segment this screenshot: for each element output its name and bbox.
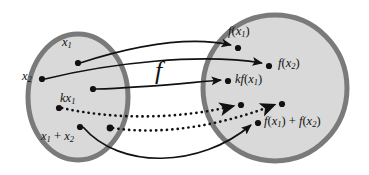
label-fx1: f(x1) xyxy=(228,25,250,39)
point-kx1 xyxy=(90,86,96,92)
linear-map-diagram: x1 x2 kx1 x1 + x2 f(x1) f(x2) kf(x1) f(x… xyxy=(0,0,369,175)
point-x2 xyxy=(39,76,45,82)
point-fx1 xyxy=(235,45,241,51)
label-kfx1: kf(x1) xyxy=(235,73,262,87)
label-map-f: f xyxy=(155,58,162,84)
point-unlabeled-lower-image xyxy=(279,101,285,107)
label-fx1-plus-fx2: f(x1) + f(x2) xyxy=(264,115,321,129)
point-x1 xyxy=(75,60,81,66)
diagram-canvas xyxy=(0,0,369,175)
label-x1-plus-x2: x1 + x2 xyxy=(41,130,74,144)
codomain-ellipse xyxy=(203,15,347,161)
label-fx2: f(x2) xyxy=(278,57,300,71)
label-x2: x2 xyxy=(22,70,32,84)
point-kfx1 xyxy=(225,78,231,84)
point-fx1-plus-fx2 xyxy=(255,120,261,126)
point-unlabeled-lower xyxy=(107,125,114,132)
point-unlabeled-upper-image xyxy=(238,102,244,108)
point-x1-plus-x2 xyxy=(77,124,83,130)
label-x1: x1 xyxy=(62,36,72,50)
label-kx1: kx1 xyxy=(60,92,75,106)
point-fx2 xyxy=(266,63,272,69)
